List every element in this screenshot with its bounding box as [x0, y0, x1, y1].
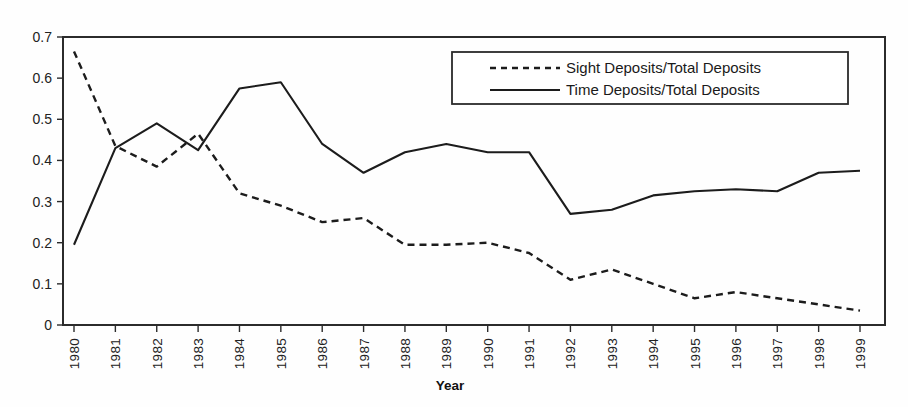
legend-label-sight-deposits: Sight Deposits/Total Deposits	[566, 59, 761, 76]
x-tick-label: 1989	[439, 338, 454, 369]
x-tick-label: 1996	[729, 338, 744, 369]
y-axis-labels: 00.10.20.30.40.50.60.7	[33, 29, 53, 333]
series-line-solid	[74, 82, 860, 245]
y-tick-label: 0.2	[33, 235, 53, 251]
y-tick-label: 0.5	[33, 111, 53, 127]
x-tick-label: 1992	[563, 338, 578, 369]
x-tick-label: 1991	[522, 338, 537, 369]
x-axis-tick-group	[74, 325, 860, 332]
y-tick-label: 0.7	[33, 29, 53, 45]
x-tick-label: 1995	[688, 338, 703, 369]
x-axis-labels: 1980198119821983198419851986198719881989…	[67, 338, 868, 369]
chart-figure: 00.10.20.30.40.50.60.7 19801981198219831…	[0, 0, 908, 407]
y-tick-label: 0.1	[33, 276, 53, 292]
x-tick-label: 1988	[398, 338, 413, 369]
y-tick-label: 0.3	[33, 194, 53, 210]
x-tick-label: 1986	[315, 338, 330, 369]
x-tick-label: 1997	[770, 338, 785, 369]
x-tick-label: 1985	[274, 338, 289, 369]
y-tick-label: 0	[44, 317, 52, 333]
x-tick-label: 1990	[481, 338, 496, 369]
y-tick-label: 0.6	[33, 70, 53, 86]
x-tick-label: 1987	[357, 338, 372, 369]
x-tick-label: 1993	[605, 338, 620, 369]
y-tick-label: 0.4	[33, 152, 53, 168]
x-tick-label: 1981	[108, 338, 123, 369]
legend-label-time-deposits: Time Deposits/Total Deposits	[566, 81, 760, 98]
x-tick-label: 1984	[232, 338, 247, 369]
x-tick-label: 1998	[812, 338, 827, 369]
x-axis-title: Year	[436, 378, 465, 393]
chart-legend: Sight Deposits/Total Deposits Time Depos…	[452, 52, 848, 104]
line-chart-plot: 00.10.20.30.40.50.60.7 19801981198219831…	[0, 0, 908, 407]
x-tick-label: 1994	[646, 338, 661, 369]
x-tick-label: 1999	[853, 338, 868, 369]
x-tick-label: 1980	[67, 338, 82, 369]
x-tick-label: 1982	[150, 338, 165, 369]
x-tick-label: 1983	[191, 338, 206, 369]
